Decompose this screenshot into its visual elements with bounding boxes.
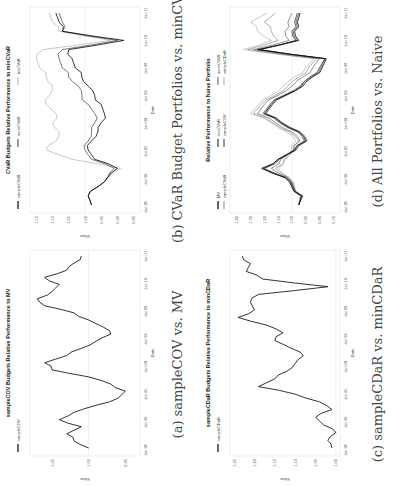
chart-title: CVaR Budgets Relative Performance to min… [5,46,11,174]
plot-area [30,250,140,456]
legend-label: sampleCVaR [16,175,21,198]
y-tick-label: 1.00 [86,458,91,467]
x-tick-label: Jan 04 [344,361,348,372]
legend-label: normCVaR [216,54,221,74]
x-tick-label: Jan 98 [344,201,348,212]
y-axis-label: Value [279,234,290,239]
y-tick-label: 1.20 [252,458,257,467]
x-tick-label: Jan 00 [344,417,348,428]
x-tick-label: Jan 10 [344,278,348,289]
y-tick-label: 1.00 [289,215,294,224]
panel-c: sampleCDaR Budgets Relative Performance … [200,243,400,486]
y-axis-label: Value [79,477,90,482]
legend-label: sampleCDaR [222,50,227,74]
y-axis-label: Value [79,234,90,239]
panel-b: CVaR Budgets Relative Performance to min… [0,0,200,243]
series-line-sampleCOV [37,256,125,448]
chart-c: sampleCDaR Budgets Relative Performance … [200,243,360,486]
x-tick-label: Jan 02 [144,146,148,157]
x-tick-label: Jan 98 [144,201,148,212]
y-tick-label: 1.20 [262,215,267,224]
legend-label: sampleCOV [222,114,227,136]
x-tick-label: Jan 06 [144,333,148,344]
legend-label: normCVaR [16,116,21,136]
y-tick-label: 1.10 [293,458,298,467]
x-tick-label: Jan 06 [344,90,348,101]
x-tick-label: Jan 08 [344,306,348,317]
chart-b: CVaR Budgets Relative Performance to min… [0,0,160,243]
x-tick-label: Jan 98 [344,444,348,455]
y-tick-label: 0.90 [115,215,120,224]
y-tick-label: 1.10 [276,215,281,224]
x-axis-label: Date [350,105,355,114]
y-tick-label: 0.85 [131,215,136,224]
y-tick-label: 1.00 [83,215,88,224]
x-tick-label: Jan 10 [344,35,348,46]
legend-label: sampleCOV [16,419,21,441]
chart-a: sampleCOV Budgets Relative Performance t… [0,243,160,486]
x-tick-label: Jan 08 [344,63,348,74]
y-tick-label: 0.95 [99,215,104,224]
caption-a: (a) sampleCOV vs. MV [163,243,193,486]
x-tick-label: Jan 04 [344,118,348,129]
y-tick-label: 1.40 [234,215,239,224]
x-tick-label: Jan 02 [344,389,348,400]
x-axis-label: Date [150,348,155,357]
caption-d: (d) All Portfolios vs. Naive [363,0,393,243]
y-tick-label: 1.05 [66,215,71,224]
y-tick-label: 1.15 [272,458,277,467]
x-tick-label: Jan 11 [144,250,148,261]
series-line-sampleCDaR [244,13,314,205]
y-tick-label: 1.00 [333,458,338,467]
x-tick-label: Jan 06 [344,333,348,344]
x-tick-label: Jan 11 [144,7,148,18]
y-tick-label: 0.70 [331,215,336,224]
chart-d: Relative Performance to Naive PortfolioM… [200,0,360,243]
x-tick-label: Jan 06 [144,90,148,101]
x-tick-label: Jan 02 [344,146,348,157]
legend-label: sampleCDaR [216,417,221,441]
caption-b: (b) CVaR Budget Portfolios vs. minCVaR [163,0,193,243]
y-tick-label: 1.15 [34,215,39,224]
chart-title: sampleCOV Budgets Relative Performance t… [5,288,11,417]
legend-label: minCVaR [216,119,221,136]
y-tick-label: 1.10 [50,215,55,224]
legend-label: tesCVaR [16,58,21,74]
panel-a: sampleCOV Budgets Relative Performance t… [0,243,200,486]
x-tick-label: Jan 04 [144,118,148,129]
y-tick-label: 1.05 [50,458,55,467]
series-line-sampleCDaR [238,256,336,448]
panel-d: Relative Performance to Naive PortfolioM… [200,0,400,243]
x-tick-label: Jan 98 [144,444,148,455]
x-tick-label: Jan 00 [344,174,348,185]
x-tick-label: Jan 10 [144,278,148,289]
x-tick-label: Jan 00 [144,417,148,428]
x-tick-label: Jan 02 [144,389,148,400]
y-tick-label: 0.80 [317,215,322,224]
y-axis-label: Value [279,477,290,482]
y-tick-label: 0.95 [123,458,128,467]
legend-label: MV [216,192,221,198]
x-tick-label: Jan 10 [144,35,148,46]
y-tick-label: 1.05 [313,458,318,467]
chart-title: Relative Performance to Naive Portfolio [205,58,211,162]
y-tick-label: 1.25 [232,458,237,467]
x-tick-label: Jan 00 [144,174,148,185]
x-axis-label: Date [150,105,155,114]
chart-title: sampleCDaR Budgets Relative Performance … [205,279,211,427]
y-tick-label: 0.90 [303,215,308,224]
x-tick-label: Jan 08 [144,306,148,317]
plot-area [230,7,340,213]
x-axis-label: Date [350,348,355,357]
series-line-sampleCVaR [56,13,124,205]
y-tick-label: 1.30 [248,215,253,224]
x-tick-label: Jan 04 [144,361,148,372]
x-tick-label: Jan 11 [344,7,348,18]
legend-label: sampleCVaR [222,175,227,198]
caption-c: (c) sampleCDaR vs. minCDaR [363,243,393,486]
x-tick-label: Jan 11 [344,250,348,261]
x-tick-label: Jan 08 [144,63,148,74]
figure-page: sampleCOV Budgets Relative Performance t… [0,0,407,486]
